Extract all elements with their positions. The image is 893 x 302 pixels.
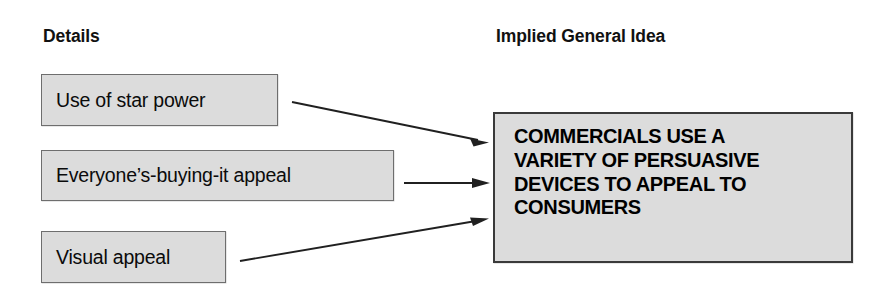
detail-box-label: Use of star power bbox=[42, 90, 277, 110]
arrow-detail-1-to-main-idea bbox=[292, 102, 489, 147]
detail-box-everyones-buying-it-appeal[interactable]: Everyone’s-buying-it appeal bbox=[41, 150, 394, 201]
detail-box-visual-appeal[interactable]: Visual appeal bbox=[41, 231, 226, 283]
main-idea-label: COMMERCIALS USE AVARIETY OF PERSUASIVEDE… bbox=[495, 114, 851, 220]
detail-box-use-of-star-power[interactable]: Use of star power bbox=[41, 74, 278, 126]
arrow-detail-3-to-main-idea bbox=[240, 218, 489, 262]
implied-general-idea-column-heading: Implied General Idea bbox=[496, 28, 665, 46]
detail-box-label: Visual appeal bbox=[42, 247, 225, 267]
detail-box-label: Everyone’s-buying-it appeal bbox=[42, 165, 393, 185]
details-column-heading: Details bbox=[43, 28, 100, 46]
arrow-detail-2-to-main-idea bbox=[404, 178, 490, 188]
diagram-canvas: Details Implied General Idea Use of star… bbox=[0, 0, 893, 302]
main-idea-box[interactable]: COMMERCIALS USE AVARIETY OF PERSUASIVEDE… bbox=[493, 112, 853, 263]
